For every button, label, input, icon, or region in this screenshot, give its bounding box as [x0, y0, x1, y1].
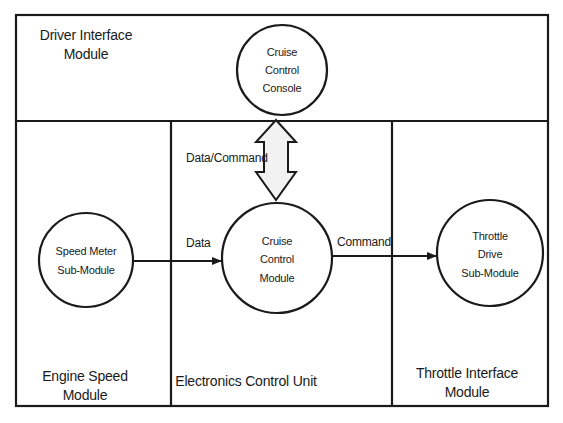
throttle-interface-line-2: Module	[445, 384, 490, 400]
module-label-engine-speed: Engine Speed Module	[42, 368, 128, 403]
node-speed-meter: Speed Meter Sub-Module	[39, 213, 133, 307]
node-cruise-control-console: Cruise Control Console	[237, 25, 327, 115]
throttle-drive-line-2: Drive	[478, 248, 503, 260]
throttle-drive-line-3: Sub-Module	[461, 267, 518, 279]
engine-speed-line-1: Engine Speed	[42, 368, 128, 384]
flow-label-data: Data	[186, 236, 211, 250]
cruise-console-line-1: Cruise	[267, 46, 298, 58]
cruise-console-line-2: Control	[265, 64, 299, 76]
cruise-module-line-2: Control	[260, 253, 294, 265]
throttle-interface-line-1: Throttle Interface	[416, 365, 519, 381]
speed-meter-line-2: Sub-Module	[57, 264, 114, 276]
cruise-console-line-3: Console	[263, 82, 302, 94]
module-label-ecu: Electronics Control Unit	[175, 373, 317, 389]
driver-interface-line-1: Driver Interface	[40, 27, 133, 43]
module-label-driver-interface: Driver Interface Module	[40, 27, 133, 62]
ecu-line-1: Electronics Control Unit	[175, 373, 317, 389]
cruise-control-diagram: Driver Interface Module Engine Speed Mod…	[0, 0, 563, 423]
throttle-drive-line-1: Throttle	[472, 230, 508, 242]
cruise-module-line-1: Cruise	[262, 235, 293, 247]
cruise-module-line-3: Module	[260, 272, 295, 284]
driver-interface-line-2: Module	[64, 46, 109, 62]
module-label-throttle-interface: Throttle Interface Module	[416, 365, 519, 400]
flow-label-command: Command	[337, 235, 391, 249]
node-cruise-control-module: Cruise Control Module	[222, 203, 332, 313]
node-throttle-drive: Throttle Drive Sub-Module	[437, 200, 543, 306]
speed-meter-line-1: Speed Meter	[56, 245, 117, 257]
engine-speed-line-2: Module	[63, 387, 108, 403]
speed-meter-circle	[39, 213, 133, 307]
flow-label-data-command: Data/Command	[186, 151, 268, 165]
